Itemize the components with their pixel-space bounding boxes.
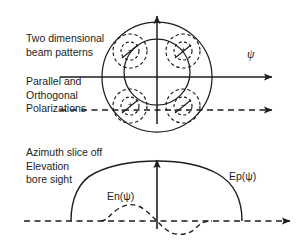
lobe-sign-bottom-right: − <box>179 100 188 110</box>
label-en-curve: En(ψ) <box>107 190 134 202</box>
label-parallel-orthogonal-polarizations: Parallel and Orthogonal Polarizations <box>26 75 86 116</box>
antenna-beam-pattern-figure: Two dimensional beam patterns Parallel a… <box>0 0 308 243</box>
lobe-sign-top-left: − <box>126 45 135 55</box>
label-psi-axis: ψ <box>247 47 254 62</box>
label-ep-curve: Ep(ψ) <box>229 170 256 182</box>
label-azimuth-slice-off-elevation-bore-sight: Azimuth slice off Elevation bore sight <box>26 146 102 187</box>
lobe-sign-top-right: + <box>179 45 188 55</box>
lobe-sign-bottom-left: + <box>126 100 135 110</box>
label-two-dimensional-beam-patterns: Two dimensional beam patterns <box>26 32 104 59</box>
